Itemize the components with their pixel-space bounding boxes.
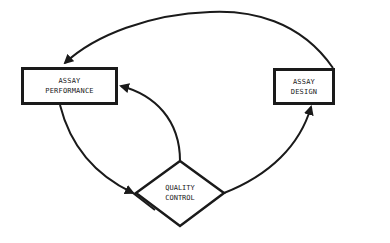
edge-design-to-performance <box>65 12 333 68</box>
connector-layer <box>0 0 390 243</box>
assay-design-node: ASSAY DESIGN <box>273 68 335 105</box>
assay-design-line-2: DESIGN <box>291 87 318 97</box>
edge-performance-to-qc <box>60 105 133 193</box>
assay-design-line-1: ASSAY <box>293 77 315 87</box>
quality-control-line-2: CONTROL <box>150 193 210 203</box>
assay-performance-node: ASSAY PERFORMANCE <box>21 67 118 105</box>
edge-qc-to-design <box>224 107 311 193</box>
diagram-canvas: ASSAY PERFORMANCE ASSAY DESIGN QUALITY C… <box>0 0 390 243</box>
quality-control-line-1: QUALITY <box>150 183 210 193</box>
quality-control-node: QUALITY CONTROL <box>150 183 210 203</box>
assay-performance-line-2: PERFORMANCE <box>45 86 94 96</box>
assay-performance-line-1: ASSAY <box>58 76 80 86</box>
edge-qc-to-performance <box>121 86 180 161</box>
